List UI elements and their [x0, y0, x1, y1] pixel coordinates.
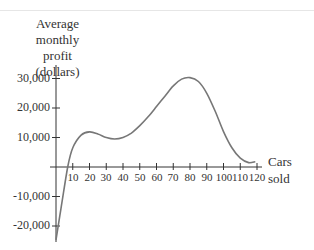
profit-curve: [56, 77, 255, 239]
chart-plot: [0, 0, 314, 250]
